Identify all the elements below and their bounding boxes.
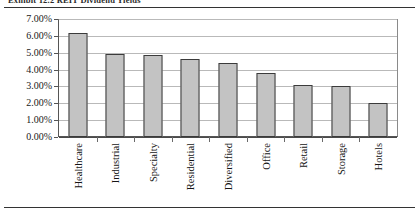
x-axis-tick-label: Diversified [222, 143, 233, 190]
figure-root: Exhibit 12.2 REIT Dividend Yields 0.00%1… [0, 0, 419, 217]
y-axis-tick-label: 2.00% [26, 98, 52, 108]
x-axis-label-slot: Office [247, 143, 285, 205]
x-axis-tick-label: Residential [185, 143, 196, 190]
x-axis-label-slot: Diversified [209, 143, 247, 205]
bar[interactable] [256, 73, 275, 137]
x-axis-label-slot: Healthcare [59, 143, 97, 205]
bar[interactable] [369, 103, 388, 137]
x-axis-tick-mark [359, 137, 360, 142]
x-axis-tick-mark [97, 137, 98, 142]
y-axis-tick-label: 5.00% [26, 48, 52, 58]
bar[interactable] [143, 55, 162, 137]
caption-rule-bottom [4, 207, 415, 208]
bar-slot [97, 19, 135, 137]
x-axis-label-slot: Industrial [97, 143, 135, 205]
x-axis-label-slot: Storage [322, 143, 360, 205]
bar[interactable] [218, 63, 237, 137]
y-axis-tick-label: 6.00% [26, 31, 52, 41]
bar[interactable] [68, 33, 87, 137]
bar[interactable] [106, 54, 125, 137]
y-axis-tick-label: 1.00% [26, 115, 52, 125]
x-axis-tick-mark [172, 137, 173, 142]
figure-caption-text: Exhibit 12.2 REIT Dividend Yields [8, 0, 411, 5]
x-axis-tick-label: Industrial [110, 143, 121, 183]
bar-slot [322, 19, 360, 137]
x-axis-label-slot: Specialty [134, 143, 172, 205]
x-axis-tick-mark [322, 137, 323, 142]
y-axis-tick-label: 4.00% [26, 65, 52, 75]
bar-slot [247, 19, 285, 137]
y-axis-tick-label: 3.00% [26, 81, 52, 91]
x-axis-tick-mark [247, 137, 248, 142]
x-axis-tick-label: Healthcare [72, 143, 83, 188]
x-axis-tick-label: Specialty [147, 143, 158, 182]
y-axis-tick-label: 7.00% [26, 14, 52, 24]
bar-slot [59, 19, 97, 137]
x-axis-label-slot: Retail [284, 143, 322, 205]
bar-series [59, 19, 397, 137]
bar-slot [209, 19, 247, 137]
x-axis-tick-mark [134, 137, 135, 142]
x-axis-labels: HealthcareIndustrialSpecialtyResidential… [59, 143, 397, 205]
bar-slot [284, 19, 322, 137]
x-axis-label-slot: Hotels [359, 143, 397, 205]
x-axis-tick-label: Retail [298, 143, 309, 168]
y-axis-tick-label: 0.00% [26, 132, 52, 142]
bar[interactable] [331, 86, 350, 137]
x-axis-tick-mark [209, 137, 210, 142]
caption-rule-top [4, 7, 415, 8]
bar[interactable] [294, 85, 313, 137]
x-axis-tick-label: Storage [335, 143, 346, 175]
figure-caption: Exhibit 12.2 REIT Dividend Yields [8, 0, 411, 5]
x-axis-tick-label: Hotels [373, 143, 384, 170]
x-axis-label-slot: Residential [172, 143, 210, 205]
x-axis-tick-label: Office [260, 143, 271, 170]
x-axis-tick-mark [284, 137, 285, 142]
bar-slot [172, 19, 210, 137]
bar[interactable] [181, 59, 200, 137]
y-axis-tick-mark [54, 137, 58, 138]
y-axis: 0.00%1.00%2.00%3.00%4.00%5.00%6.00%7.00% [0, 0, 56, 217]
bar-slot [359, 19, 397, 137]
bar-slot [134, 19, 172, 137]
